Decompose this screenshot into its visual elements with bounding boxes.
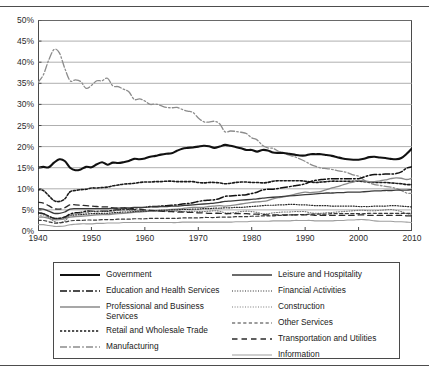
legend-item-label: Government: [106, 268, 152, 279]
legend-line-swatch: [231, 349, 273, 361]
y-tick-label: 15%: [0, 163, 34, 173]
legend-column-right: Leisure and HospitalityFinancial Activit…: [231, 268, 401, 364]
series-line-retail-and-wholesale-trade: [38, 181, 412, 202]
legend-item-label: Transportation and Utilities: [278, 332, 376, 343]
y-tick-label: 10%: [0, 184, 34, 194]
legend-line-swatch: [59, 301, 101, 313]
chart-legend: GovernmentEducation and Health ServicesP…: [53, 262, 400, 359]
x-tick-label: 1970: [189, 233, 208, 243]
x-tick-label: 1990: [296, 233, 315, 243]
x-tick-label: 1960: [135, 233, 154, 243]
legend-item[interactable]: Other Services: [231, 316, 401, 329]
x-axis: 19401950196019701980199020002010: [38, 233, 412, 247]
y-tick-label: 20%: [0, 142, 34, 152]
figure-bottom-rule: [0, 365, 429, 366]
y-tick-label: 5%: [0, 205, 34, 215]
legend-item-label: Manufacturing: [106, 340, 159, 351]
legend-item[interactable]: Financial Activities: [231, 284, 401, 297]
plot-area: [38, 20, 412, 231]
legend-line-swatch: [59, 341, 101, 353]
legend-line-swatch: [59, 325, 101, 337]
x-tick-label: 1940: [29, 233, 48, 243]
legend-item[interactable]: Professional and Business Services: [59, 300, 229, 321]
chart-figure: 0%5%10%15%20%25%30%35%40%45%50% 19401950…: [0, 0, 429, 369]
legend-item-label: Information: [278, 348, 320, 359]
x-tick-label: 1950: [82, 233, 101, 243]
legend-line-swatch: [231, 333, 273, 345]
legend-column-left: GovernmentEducation and Health ServicesP…: [59, 268, 229, 356]
legend-item-label: Other Services: [278, 316, 333, 327]
legend-item[interactable]: Education and Health Services: [59, 284, 229, 297]
legend-item-label: Leisure and Hospitality: [278, 268, 362, 279]
x-tick-label: 2010: [403, 233, 422, 243]
legend-line-swatch: [231, 285, 273, 297]
series-line-manufacturing: [38, 49, 412, 193]
legend-line-swatch: [59, 269, 101, 281]
legend-item-label: Professional and Business Services: [106, 300, 229, 321]
legend-line-swatch: [59, 285, 101, 297]
plot-lines: [38, 20, 412, 231]
legend-item[interactable]: Manufacturing: [59, 340, 229, 353]
legend-item[interactable]: Retail and Wholesale Trade: [59, 324, 229, 337]
legend-line-swatch: [231, 301, 273, 313]
x-tick-label: 1980: [242, 233, 261, 243]
figure-top-rule: [0, 6, 429, 7]
legend-item[interactable]: Leisure and Hospitality: [231, 268, 401, 281]
legend-line-swatch: [231, 269, 273, 281]
legend-item[interactable]: Construction: [231, 300, 401, 313]
legend-item[interactable]: Transportation and Utilities: [231, 332, 401, 345]
legend-item[interactable]: Government: [59, 268, 229, 281]
legend-item-label: Construction: [278, 300, 325, 311]
legend-item-label: Retail and Wholesale Trade: [106, 324, 208, 335]
y-tick-label: 45%: [0, 36, 34, 46]
legend-item[interactable]: Information: [231, 348, 401, 361]
legend-item-label: Financial Activities: [278, 284, 346, 295]
legend-item-label: Education and Health Services: [106, 284, 219, 295]
x-tick-label: 2000: [349, 233, 368, 243]
y-tick-label: 35%: [0, 78, 34, 88]
y-tick-label: 30%: [0, 99, 34, 109]
series-line-government: [38, 145, 412, 170]
y-tick-label: 25%: [0, 121, 34, 131]
y-tick-label: 40%: [0, 57, 34, 67]
legend-line-swatch: [231, 317, 273, 329]
y-axis: 0%5%10%15%20%25%30%35%40%45%50%: [0, 20, 36, 231]
y-tick-label: 50%: [0, 15, 34, 25]
